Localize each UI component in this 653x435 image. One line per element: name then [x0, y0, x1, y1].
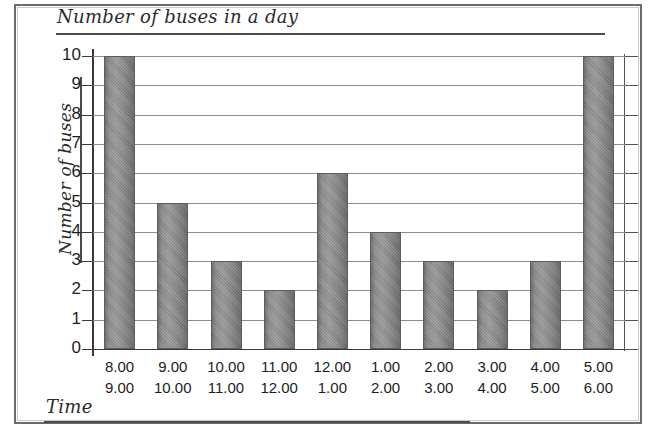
x-axis-label-end: 6.00: [572, 377, 625, 398]
y-axis-tick-8: [82, 115, 93, 116]
y-axis-tick-label: 2: [55, 279, 81, 299]
x-axis-label-start: 5.00: [572, 356, 625, 377]
x-axis-label-start: 3.00: [465, 356, 518, 377]
x-axis-tick-label: 2.003.00: [412, 356, 465, 398]
y-axis-tick-4: [82, 232, 93, 233]
y-axis-tick-label: 0: [55, 338, 81, 358]
x-axis-label-end: 12.00: [253, 377, 306, 398]
x-axis-tick-label: 8.009.00: [93, 356, 146, 398]
y-axis-tick-1: [82, 320, 93, 321]
x-axis-label-end: 11.00: [199, 377, 252, 398]
bar: [104, 56, 135, 349]
y-axis-tick-0: [82, 349, 93, 350]
y-axis-tick-label: 10: [55, 45, 81, 65]
x-axis-tick-label: 1.002.00: [359, 356, 412, 398]
chart-screenshot: Number of buses in a day Number of buses…: [0, 0, 653, 435]
y-axis-tick-labels: 012345678910: [55, 56, 81, 349]
x-axis-label-start: 2.00: [412, 356, 465, 377]
bar: [477, 290, 508, 349]
bar: [370, 232, 401, 349]
x-axis-label-start: 1.00: [359, 356, 412, 377]
x-axis-tick-label: 4.005.00: [519, 356, 572, 398]
x-axis-label-end: 2.00: [359, 377, 412, 398]
y-axis-tick-2: [82, 290, 93, 291]
right-axis-tick-5: [625, 203, 638, 204]
y-axis-tick-label: 6: [55, 162, 81, 182]
y-axis-tick-label: 9: [55, 74, 81, 94]
x-axis-label-end: 10.00: [146, 377, 199, 398]
x-axis-tick-labels: 8.009.009.0010.0010.0011.0011.0012.0012.…: [93, 356, 625, 400]
x-axis-tick-label: 12.001.00: [306, 356, 359, 398]
bar: [530, 261, 561, 349]
right-axis-tick-7: [625, 144, 638, 145]
bar: [423, 261, 454, 349]
x-axis-label-end: 1.00: [306, 377, 359, 398]
x-axis-label-end: 3.00: [412, 377, 465, 398]
x-axis-title: Time: [46, 396, 93, 417]
y-axis-tick-6: [82, 173, 93, 174]
y-axis-tick-10: [82, 56, 93, 57]
x-axis-label-start: 11.00: [253, 356, 306, 377]
x-axis-label-start: 4.00: [519, 356, 572, 377]
gridline-9: [93, 85, 625, 86]
page-title: Number of buses in a day: [57, 6, 298, 28]
y-axis-tick-3: [82, 261, 93, 262]
gridline-8: [93, 115, 625, 116]
right-axis-tick-10: [625, 56, 638, 57]
gridline-0: [93, 349, 625, 350]
title-underline: [56, 33, 605, 35]
y-axis-tick-label: 5: [55, 192, 81, 212]
gridline-7: [93, 144, 625, 145]
right-axis-tick-6: [625, 173, 638, 174]
plot-area: [93, 56, 625, 349]
right-axis-tick-8: [625, 115, 638, 116]
right-axis-tick-1: [625, 320, 638, 321]
x-axis-label-start: 9.00: [146, 356, 199, 377]
x-axis-label-end: 4.00: [465, 377, 518, 398]
x-axis-tick-label: 10.0011.00: [199, 356, 252, 398]
gridline-10: [93, 56, 625, 57]
y-axis-tick-9: [82, 85, 93, 86]
x-axis-label-start: 8.00: [93, 356, 146, 377]
y-axis-tick-label: 1: [55, 309, 81, 329]
bar: [583, 56, 614, 349]
x-axis-tick-label: 5.006.00: [572, 356, 625, 398]
y-axis-tick-label: 3: [55, 250, 81, 270]
y-axis-tick-label: 8: [55, 104, 81, 124]
x-axis-label-start: 10.00: [199, 356, 252, 377]
x-axis-tick-label: 11.0012.00: [253, 356, 306, 398]
y-axis-tick-7: [82, 144, 93, 145]
y-axis-tick-5: [82, 203, 93, 204]
right-axis-tick-3: [625, 261, 638, 262]
y-axis-tick-label: 7: [55, 133, 81, 153]
right-axis-tick-9: [625, 85, 638, 86]
x-axis-label-end: 5.00: [519, 377, 572, 398]
x-axis-label-start: 12.00: [306, 356, 359, 377]
bar: [157, 203, 188, 350]
right-axis-tick-0: [625, 349, 638, 350]
x-axis-label-end: 9.00: [93, 377, 146, 398]
x-axis-tick-label: 3.004.00: [465, 356, 518, 398]
bar: [317, 173, 348, 349]
bar: [264, 290, 295, 349]
bar: [211, 261, 242, 349]
y-axis-tick-label: 4: [55, 221, 81, 241]
gridline-6: [93, 173, 625, 174]
right-axis-tick-2: [625, 290, 638, 291]
x-axis-tick-label: 9.0010.00: [146, 356, 199, 398]
x-axis-title-underline: [44, 421, 470, 423]
right-axis-tick-4: [625, 232, 638, 233]
